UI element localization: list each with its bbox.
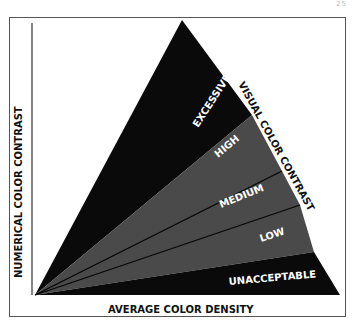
- y-axis-label: NUMERICAL COLOR CONTRAST: [13, 106, 24, 278]
- x-axis-label: AVERAGE COLOR DENSITY: [108, 304, 254, 315]
- contrast-triangle-diagram: EXCESSIVE HIGH MEDIUM LOW UNACCEPTABLE N…: [0, 0, 353, 329]
